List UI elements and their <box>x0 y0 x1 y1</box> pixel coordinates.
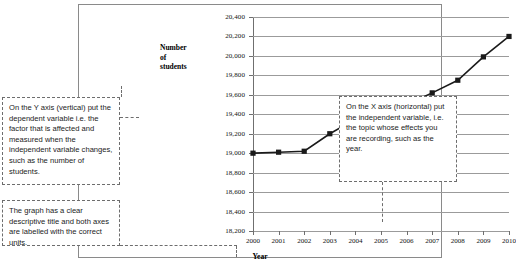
y-axis-tick-label: 18,800 <box>225 169 245 177</box>
x-axis-tick-label: 2001 <box>272 237 286 245</box>
y-axis-title-line-3: students <box>160 62 208 72</box>
x-axis-tick-label: 2000 <box>246 237 260 245</box>
x-axis-tick-label: 2008 <box>451 237 465 245</box>
y-axis-tick-labels: 18,20018,40018,60018,80019,00019,20019,4… <box>217 17 249 231</box>
x-axis-tick <box>330 231 331 235</box>
x-axis-ticks <box>253 231 509 236</box>
data-point-marker <box>481 54 486 59</box>
x-axis-tick-label: 2002 <box>297 237 311 245</box>
callout-title-units: The graph has a clear descriptive title … <box>2 200 120 246</box>
x-axis-tick <box>458 231 459 235</box>
y-axis-tick-label: 18,600 <box>225 188 245 196</box>
callout-y-axis: On the Y axis (vertical) put the depende… <box>2 97 120 185</box>
x-axis-tick <box>509 231 510 235</box>
callout-connector-bottom-vertical <box>236 246 237 257</box>
x-axis-tick-label: 2010 <box>502 237 516 245</box>
y-axis-tick-label: 19,200 <box>225 130 245 138</box>
callout-connector-bottom-horizontal <box>120 245 237 246</box>
y-axis-tick-label: 20,200 <box>225 32 245 40</box>
x-axis-tick-label: 2007 <box>425 237 439 245</box>
data-point-marker <box>302 149 307 154</box>
x-axis-tick <box>304 231 305 235</box>
x-axis-title: Year <box>79 252 441 261</box>
x-axis-tick-label: 2004 <box>348 237 362 245</box>
callout-connector-x-axis <box>382 182 383 222</box>
y-axis-tick-label: 20,000 <box>225 52 245 60</box>
y-axis-tick-label: 19,000 <box>225 149 245 157</box>
data-point-marker <box>327 131 332 136</box>
callout-x-axis: On the X axis (horizontal) put the indep… <box>339 96 457 182</box>
y-axis-title-line-1: Number <box>160 43 208 53</box>
y-axis-tick-label: 19,400 <box>225 110 245 118</box>
y-axis-tick-label: 19,800 <box>225 71 245 79</box>
data-point-marker <box>276 150 281 155</box>
x-axis-tick-labels: 2000200120022003200420052006200720082009… <box>253 237 509 249</box>
data-point-marker <box>455 78 460 83</box>
y-axis-tick-label: 18,400 <box>225 208 245 216</box>
y-axis-title: Number of students <box>160 43 208 72</box>
x-axis-tick <box>432 231 433 235</box>
x-axis-tick-label: 2006 <box>400 237 414 245</box>
x-axis-tick <box>407 231 408 235</box>
callout-connector-top <box>121 86 122 97</box>
data-point-marker <box>506 34 511 39</box>
x-axis-tick-label: 2009 <box>476 237 490 245</box>
x-axis-tick <box>279 231 280 235</box>
data-point-marker <box>250 151 255 156</box>
x-axis-tick-label: 2005 <box>374 237 388 245</box>
x-axis-tick <box>355 231 356 235</box>
y-axis-tick-label: 20,400 <box>225 13 245 21</box>
x-axis-tick <box>253 231 254 235</box>
data-point-marker <box>430 90 435 95</box>
y-axis-tick-label: 19,600 <box>225 91 245 99</box>
x-axis-tick <box>483 231 484 235</box>
y-axis-tick-label: 18,200 <box>225 227 245 235</box>
callout-connector-y-axis <box>120 117 139 118</box>
x-axis-tick-label: 2003 <box>323 237 337 245</box>
y-axis-title-line-2: of <box>160 53 208 63</box>
x-axis-tick <box>381 231 382 235</box>
